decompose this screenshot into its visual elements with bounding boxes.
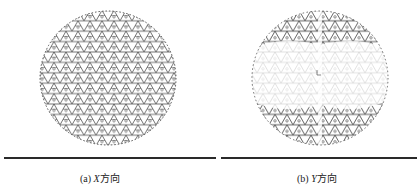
panel-a-x-direction [0, 0, 209, 186]
geodesic-sphere-y-mode-shape [209, 0, 418, 150]
separator-rule-a [4, 157, 216, 159]
caption-b-direction: 方向 [317, 173, 337, 184]
caption-a-label: (a) [80, 173, 91, 184]
caption-b-label: (b) [297, 173, 309, 184]
caption-a-direction: 方向 [100, 173, 120, 184]
caption-b: (b) Y方向 [297, 170, 337, 185]
geodesic-sphere-x-mode-shape [0, 0, 209, 150]
panel-b-y-direction [209, 0, 418, 186]
caption-a: (a) X方向 [80, 170, 120, 185]
separator-rule-b [221, 157, 417, 159]
